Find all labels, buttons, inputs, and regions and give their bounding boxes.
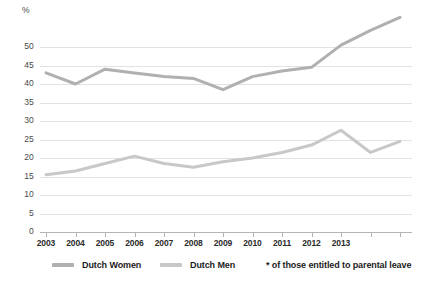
line-chart: % 05101520253035404550 20032004200520062… — [0, 0, 422, 287]
y-axis-unit-label: % — [22, 6, 30, 15]
x-axis-tick — [312, 232, 313, 237]
y-axis-tick-label: 10 — [0, 190, 34, 199]
x-axis-tick — [400, 232, 401, 237]
x-axis-tick — [164, 232, 165, 237]
x-axis-tick — [223, 232, 224, 237]
y-axis-tick-label: 30 — [0, 116, 34, 125]
y-axis-tick-label: 25 — [0, 135, 34, 144]
series-container — [40, 10, 412, 232]
x-axis-line — [40, 232, 412, 233]
x-axis-tick — [371, 232, 372, 237]
y-axis-tick-label: 35 — [0, 98, 34, 107]
y-axis-tick-label: 50 — [0, 42, 34, 51]
y-axis-tick-label: 5 — [0, 209, 34, 218]
x-axis-tick — [194, 232, 195, 237]
legend-swatch-icon — [160, 263, 182, 267]
x-axis-tick — [46, 232, 47, 237]
y-axis-tick-label: 0 — [0, 227, 34, 236]
legend-footnote: * of those entitled to parental leave — [266, 258, 411, 272]
y-axis-tick-label: 20 — [0, 153, 34, 162]
x-axis-tick — [341, 232, 342, 237]
legend-label: Dutch Women — [82, 258, 141, 272]
y-axis-tick-label: 40 — [0, 79, 34, 88]
legend-swatch-icon — [52, 263, 74, 267]
y-axis-tick-label: 45 — [0, 61, 34, 70]
series-line-dutch-men — [46, 130, 400, 174]
series-line-dutch-women — [46, 17, 400, 89]
x-axis-tick — [135, 232, 136, 237]
x-axis-tick-label: 2013 — [324, 238, 358, 248]
y-axis-tick-label: 15 — [0, 172, 34, 181]
x-axis-tick — [105, 232, 106, 237]
x-axis-tick — [282, 232, 283, 237]
chart-legend: Dutch WomenDutch Men* of those entitled … — [0, 258, 422, 278]
x-axis-tick — [76, 232, 77, 237]
x-axis-tick — [253, 232, 254, 237]
legend-label: Dutch Men — [190, 258, 235, 272]
